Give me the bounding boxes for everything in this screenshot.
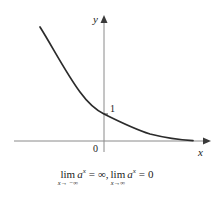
exponential-curve [40, 27, 193, 141]
second-limit-operator-stack: lim x→∞ [111, 168, 126, 180]
graph-canvas [0, 0, 214, 165]
first-limit-expression: lim x→ −∞ ax=∞ [60, 168, 105, 180]
y-axis-arrowhead [101, 15, 108, 23]
caption-separator: , [106, 168, 109, 180]
first-limit-subscript: x→ −∞ [58, 179, 78, 186]
exponential-decay-figure: y x 1 0 lim x→ −∞ ax=∞, lim x→∞ ax=0 [0, 0, 214, 198]
first-limit-function: ax [77, 168, 86, 180]
x-axis-label: x [198, 147, 203, 158]
origin-label: 0 [93, 144, 98, 154]
second-limit-expression: lim x→∞ ax=0 [111, 168, 154, 180]
second-limit-exponent: x [133, 167, 136, 175]
first-limit-exponent: x [83, 167, 86, 175]
second-limit-value: 0 [148, 168, 154, 180]
second-limit-relation: = [139, 168, 145, 180]
second-limit-subscript: x→∞ [111, 179, 125, 186]
first-limit-value: ∞ [98, 168, 106, 180]
x-axis-arrowhead [203, 138, 211, 145]
first-limit-operator-stack: lim x→ −∞ [60, 168, 75, 180]
second-limit-function: ax [127, 168, 136, 180]
y-intercept-tick-label: 1 [110, 104, 115, 114]
y-axis-label: y [93, 14, 98, 25]
first-limit-relation: = [89, 168, 95, 180]
limit-caption: lim x→ −∞ ax=∞, lim x→∞ ax=0 [0, 168, 214, 180]
